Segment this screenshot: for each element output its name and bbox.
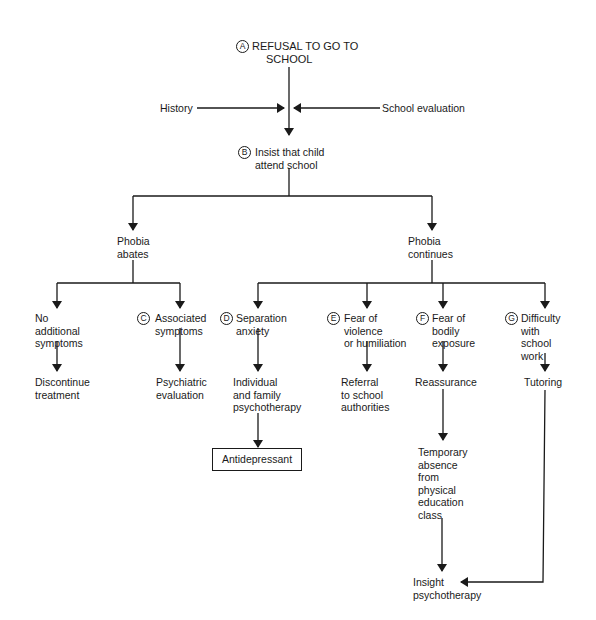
node-text: and family: [233, 389, 301, 402]
node-text: additional: [35, 325, 83, 338]
node-text: SCHOOL: [237, 53, 358, 66]
node-text: No: [35, 312, 83, 325]
node-text: Tutoring: [524, 376, 562, 389]
node-individual-family-psychotherapy: Individual and family psychotherapy: [233, 376, 301, 414]
node-refusal-to-go-to-school: A REFUSAL TO GO TO SCHOOL: [237, 40, 358, 65]
node-text: physical: [418, 484, 468, 497]
node-text: absence: [418, 459, 468, 472]
node-fear-of-bodily-exposure: F Fear of bodily exposure: [416, 312, 475, 350]
badge-b: B: [238, 146, 251, 159]
node-history: History: [160, 102, 193, 115]
node-school-evaluation: School evaluation: [382, 102, 465, 115]
node-text: Psychiatric: [156, 376, 207, 389]
node-text: Individual: [233, 376, 301, 389]
badge-d: D: [220, 312, 233, 325]
badge-e: E: [327, 312, 340, 325]
badge-c: C: [137, 312, 150, 325]
node-text: authorities: [341, 401, 389, 414]
node-text: Antidepressant: [222, 453, 292, 466]
node-insist-attend-school: B Insist that child attend school: [238, 146, 324, 171]
node-phobia-continues: Phobia continues: [408, 235, 453, 260]
node-text: school: [505, 337, 560, 350]
node-text: violence: [327, 325, 406, 338]
connector-lines: [0, 0, 596, 620]
badge-g: G: [505, 312, 518, 325]
badge-f: F: [416, 312, 429, 325]
node-referral-school-authorities: Referral to school authorities: [341, 376, 389, 414]
node-text: REFUSAL TO GO TO: [237, 40, 358, 53]
node-text: Reassurance: [415, 376, 477, 389]
node-text: abates: [117, 248, 150, 261]
node-associated-symptoms: C Associated symptoms: [137, 312, 206, 337]
node-text: psychotherapy: [233, 401, 301, 414]
node-text: anxiety: [220, 325, 287, 338]
node-text: symptoms: [137, 325, 206, 338]
node-insight-psychotherapy: Insight psychotherapy: [413, 576, 481, 601]
node-text: psychotherapy: [413, 589, 481, 602]
node-text: or humiliation: [327, 337, 406, 350]
node-temporary-absence-pe: Temporary absence from physical educatio…: [418, 446, 468, 521]
node-text: Referral: [341, 376, 389, 389]
node-text: symptoms: [35, 337, 83, 350]
node-tutoring: Tutoring: [524, 376, 562, 389]
node-text: from: [418, 471, 468, 484]
node-discontinue-treatment: Discontinue treatment: [35, 376, 90, 401]
node-fear-of-violence: E Fear of violence or humiliation: [327, 312, 406, 350]
node-text: exposure: [416, 337, 475, 350]
node-separation-anxiety: D Separation anxiety: [220, 312, 287, 337]
badge-a: A: [236, 40, 249, 53]
node-text: Discontinue: [35, 376, 90, 389]
node-text: History: [160, 102, 193, 115]
node-text: evaluation: [156, 389, 207, 402]
node-text: treatment: [35, 389, 90, 402]
node-text: work: [505, 350, 560, 363]
node-text: continues: [408, 248, 453, 261]
node-text: Insight: [413, 576, 481, 589]
node-reassurance: Reassurance: [415, 376, 477, 389]
node-text: bodily: [416, 325, 475, 338]
node-text: class: [418, 509, 468, 522]
node-text: education: [418, 496, 468, 509]
node-text: with: [505, 325, 560, 338]
node-text: Phobia: [408, 235, 453, 248]
node-difficulty-school-work: G Difficulty with school work: [505, 312, 560, 362]
node-text: Temporary: [418, 446, 468, 459]
node-text: to school: [341, 389, 389, 402]
node-antidepressant: Antidepressant: [212, 448, 302, 471]
node-text: attend school: [238, 159, 324, 172]
node-text: School evaluation: [382, 102, 465, 115]
node-psychiatric-evaluation: Psychiatric evaluation: [156, 376, 207, 401]
node-no-additional-symptoms: No additional symptoms: [35, 312, 83, 350]
flowchart-canvas: A REFUSAL TO GO TO SCHOOL History School…: [0, 0, 596, 620]
node-text: Phobia: [117, 235, 150, 248]
node-phobia-abates: Phobia abates: [117, 235, 150, 260]
